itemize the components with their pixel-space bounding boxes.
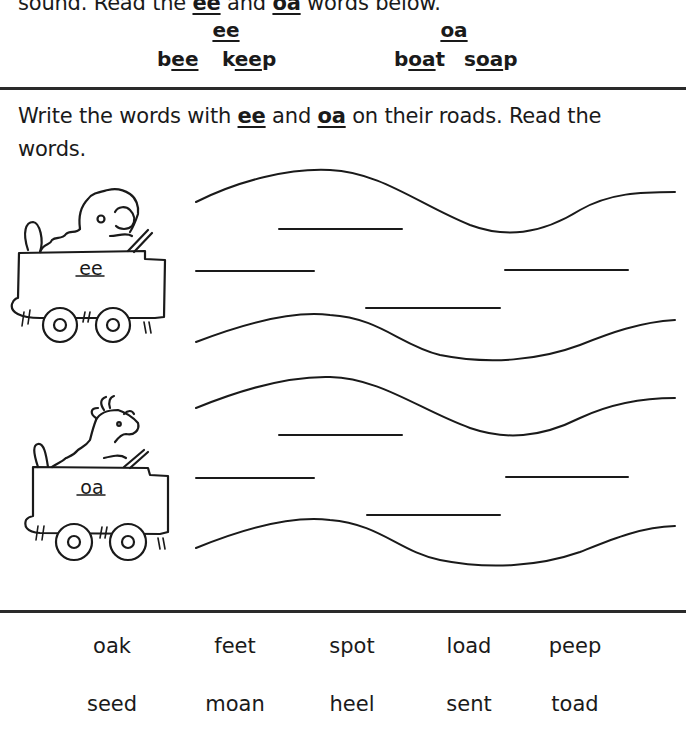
word-bank-item: moan	[205, 692, 264, 716]
road-ee-blanks	[196, 229, 628, 308]
word-bank-item: spot	[329, 634, 374, 658]
oa-car-label: oa	[75, 476, 109, 498]
word-bank-item: toad	[551, 692, 598, 716]
word-bank-item: feet	[214, 634, 255, 658]
road-oa-blanks	[196, 435, 628, 515]
word-bank-item: heel	[330, 692, 375, 716]
word-bank-item: sent	[446, 692, 491, 716]
word-bank-item: oak	[93, 634, 131, 658]
word-bank-item: seed	[87, 692, 137, 716]
road-oa	[196, 377, 675, 566]
word-bank-item: load	[447, 634, 492, 658]
word-bank-item: peep	[549, 634, 602, 658]
section-divider-bottom	[0, 610, 686, 613]
ee-car-label: ee	[74, 257, 108, 279]
roads-illustration	[0, 0, 686, 742]
road-ee	[196, 170, 675, 360]
